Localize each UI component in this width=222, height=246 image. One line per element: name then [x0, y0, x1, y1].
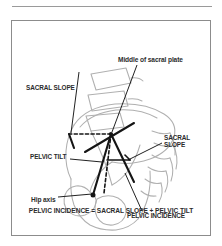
- posterior-ilium: [66, 125, 74, 179]
- sacral-ridge-5: [145, 179, 161, 184]
- label-sacral-slope-right: SACRAL SLOPE: [164, 135, 190, 149]
- figure-caption-formula: PELVIC INCIDENCE = SACRAL SLOPE + PELVIC…: [12, 207, 210, 214]
- figure-frame: SACRAL SLOPE Middle of sacral plate SACR…: [11, 20, 211, 236]
- sacral-ridge-3: [152, 155, 170, 159]
- label-sacral-slope-left: SACRAL SLOPE: [26, 85, 75, 92]
- posterior-element-middle: [128, 99, 142, 101]
- iliac-crest-inner: [80, 110, 157, 127]
- label-sacral-slope-right-line2: SLOPE: [164, 142, 190, 149]
- figure-page: SACRAL SLOPE Middle of sacral plate SACR…: [0, 0, 222, 246]
- sacral-ridge-9: [170, 158, 173, 181]
- vertebra-middle: [88, 91, 128, 111]
- label-pelvic-tilt: PELVIC TILT: [30, 154, 66, 161]
- pelvic-incidence-arm: [111, 134, 134, 182]
- hip-axis-point: [91, 193, 96, 198]
- vertebra-upper: [91, 68, 131, 90]
- sacral-ridge-11: [159, 183, 162, 202]
- label-middle-of-sacral-plate: Middle of sacral plate: [118, 56, 183, 63]
- sacral-ridge-4: [148, 167, 166, 172]
- middle-of-sacral-plate-point: [109, 132, 113, 136]
- anatomy-outlines: [64, 68, 177, 230]
- leader-pelvic-tilt: [70, 159, 102, 162]
- sacral-ridge-10: [165, 171, 168, 192]
- label-hip-axis: Hip axis: [31, 196, 56, 203]
- sacral-slope-angle-tick: [69, 134, 74, 148]
- leader-hip-axis: [58, 194, 92, 197]
- posterior-element-upper: [131, 78, 143, 81]
- label-pelvic-incidence: PELVIC INCIDENCE: [127, 213, 185, 220]
- top-divider-rule: [12, 6, 212, 7]
